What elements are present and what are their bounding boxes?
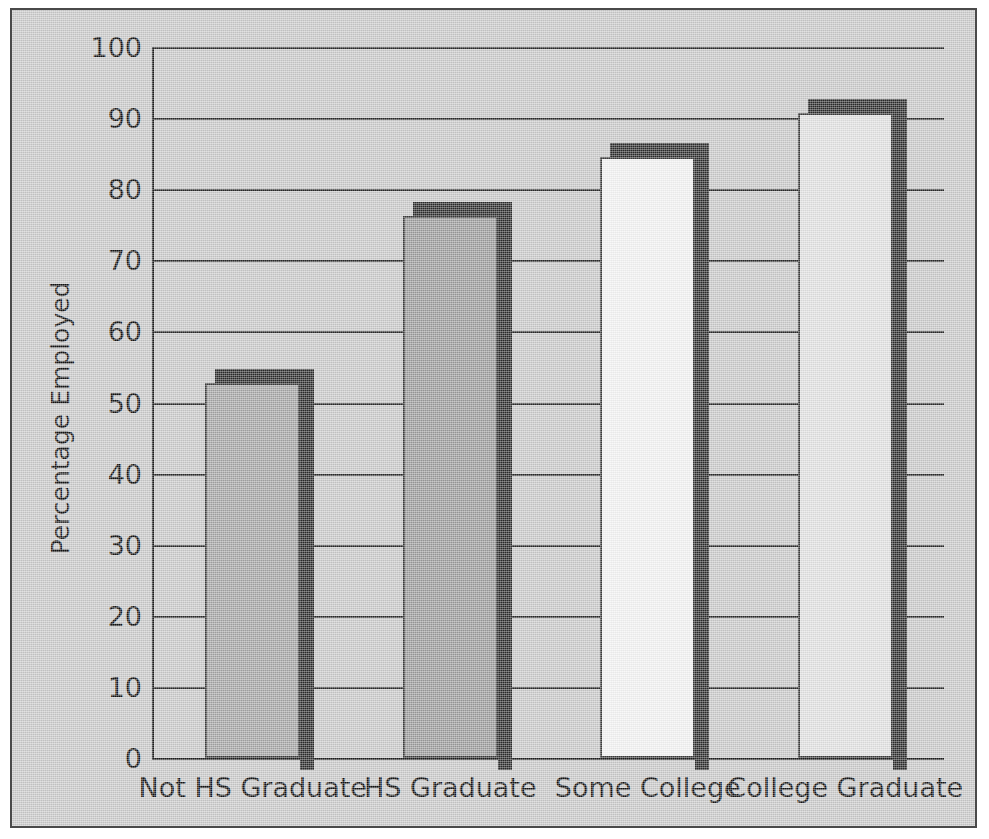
plot-area: 0102030405060708090100Not HS GraduateHS … [152, 47, 944, 760]
y-axis-tick-label: 40 [108, 460, 142, 487]
x-axis-tick-label: Not HS Graduate [139, 772, 367, 803]
bar-shadow-right [893, 99, 907, 770]
bar-shadow-top [610, 143, 707, 157]
bar-2 [600, 157, 695, 759]
bar-shadow-right [695, 143, 709, 771]
bar-1 [403, 216, 498, 758]
y-axis-tick-label: 0 [125, 745, 142, 772]
y-axis-tick-label: 20 [108, 602, 142, 629]
bar-3 [798, 113, 893, 758]
bar-0 [205, 383, 300, 758]
y-axis-label: Percentage Employed [46, 282, 75, 555]
x-axis-tick-label: College Graduate [727, 772, 963, 803]
y-axis-tick-label: 100 [90, 34, 142, 61]
x-axis-tick-label: Some College [555, 772, 741, 803]
y-axis-tick-label: 80 [108, 176, 142, 203]
bar-shadow-top [808, 99, 905, 113]
bar-shadow-right [300, 369, 314, 770]
chart-figure: Percentage Employed 01020304050607080901… [10, 8, 977, 828]
y-axis-tick-label: 70 [108, 247, 142, 274]
y-axis-tick-label: 10 [108, 673, 142, 700]
bar-shadow-top [215, 369, 312, 383]
bar-shadow-top [413, 202, 510, 216]
bar-shadow-right [498, 202, 512, 770]
gridline [154, 47, 944, 49]
x-axis-tick-label: HS Graduate [364, 772, 537, 803]
y-axis-tick-label: 90 [108, 105, 142, 132]
y-axis-tick-label: 60 [108, 318, 142, 345]
y-axis-tick-label: 50 [108, 389, 142, 416]
y-axis-tick-label: 30 [108, 531, 142, 558]
